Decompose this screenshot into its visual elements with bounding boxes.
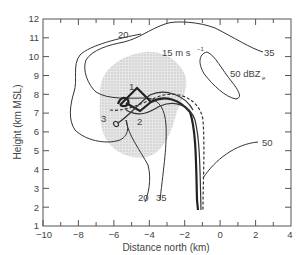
svg-text:9: 9 xyxy=(34,70,39,81)
svg-text:12: 12 xyxy=(28,13,39,24)
chart-canvas: −10 −8 −6 −4 −2 0 2 4 1 2 3 4 5 6 7 8 9 … xyxy=(0,0,304,255)
svg-text:−4: −4 xyxy=(144,229,155,240)
updraft-label: 15 m s xyxy=(162,47,191,58)
svg-text:4: 4 xyxy=(34,164,39,175)
svg-text:4: 4 xyxy=(287,229,292,240)
contour-50-dbz-right xyxy=(203,142,258,178)
svg-text:2: 2 xyxy=(253,229,258,240)
contour-label-20-top: 20 xyxy=(118,29,129,40)
svg-text:5: 5 xyxy=(34,145,39,156)
svg-text:10: 10 xyxy=(28,51,39,62)
svg-text:8: 8 xyxy=(34,89,39,100)
svg-text:1: 1 xyxy=(34,220,39,231)
trajectory-label-2: 2 xyxy=(137,116,142,127)
svg-text:2: 2 xyxy=(34,202,39,213)
trajectory-label-3: 3 xyxy=(101,113,106,124)
y-axis-title: Height (km MSL) xyxy=(12,84,23,159)
updraft-label-sup: −1 xyxy=(197,46,205,52)
svg-text:3: 3 xyxy=(34,183,39,194)
dbz-label: 50 dBZ xyxy=(230,68,261,79)
y-tick-labels: 1 2 3 4 5 6 7 8 9 10 11 12 xyxy=(28,13,39,231)
contour-label-35-right: 35 xyxy=(264,47,275,58)
svg-text:6: 6 xyxy=(34,126,39,137)
svg-text:−8: −8 xyxy=(73,229,84,240)
svg-text:−6: −6 xyxy=(108,229,119,240)
trajectory-label-1: 1 xyxy=(129,81,134,92)
contour-label-20-bottom: 20 xyxy=(138,192,149,203)
dbz-label-sub: e xyxy=(262,75,266,81)
svg-text:−2: −2 xyxy=(179,229,190,240)
svg-text:0: 0 xyxy=(217,229,222,240)
svg-text:7: 7 xyxy=(34,107,39,118)
x-tick-labels: −10 −8 −6 −4 −2 0 2 4 xyxy=(36,229,293,240)
contour-label-35-bottom: 35 xyxy=(156,192,167,203)
contour-label-50-right: 50 xyxy=(262,137,273,148)
x-axis-title: Distance north (km) xyxy=(122,242,209,253)
svg-text:11: 11 xyxy=(29,32,39,43)
